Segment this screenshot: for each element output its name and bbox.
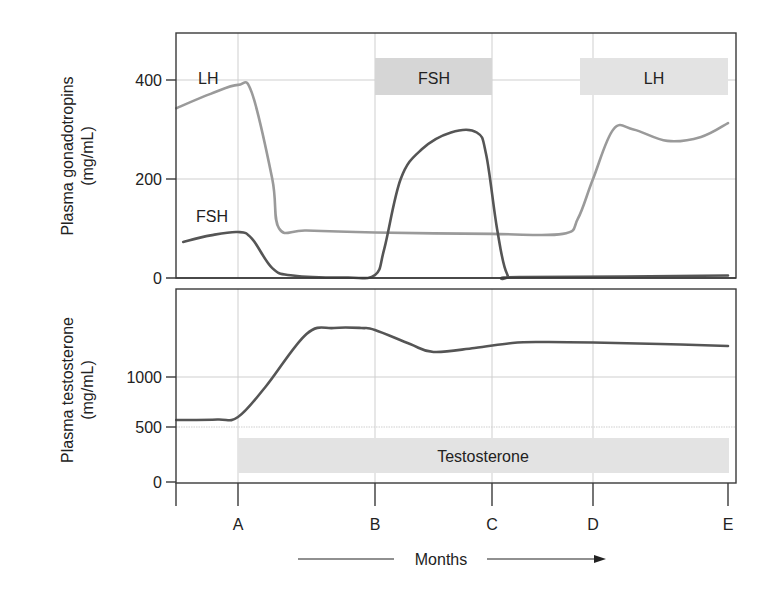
lh-curve-label: LH (198, 70, 218, 87)
top-panel-series (176, 82, 728, 279)
x-tick-label: B (370, 516, 381, 533)
x-tick-label: C (486, 516, 498, 533)
bottom-panel: 05001000 Testosterone Plasma testosteron… (59, 289, 736, 491)
y-tick-label: 0 (153, 474, 162, 491)
testosterone-line (176, 327, 728, 420)
arrow-right-icon (594, 555, 606, 563)
y-tick-label: 400 (135, 72, 162, 89)
testosterone-band-label: Testosterone (437, 448, 529, 465)
bottom-panel-series (176, 327, 728, 420)
x-tick-label: D (587, 516, 599, 533)
fsh-band-label: FSH (418, 70, 450, 87)
top-ylabel-line2: (mg/mL) (79, 126, 96, 186)
bottom-y-axis-label: Plasma testosterone (mg/mL) (59, 317, 96, 463)
lh-band-label: LH (644, 70, 664, 87)
months-axis-label: Months (298, 551, 606, 568)
lh-line (176, 82, 728, 235)
months-label: Months (415, 551, 467, 568)
y-tick-label: 0 (153, 270, 162, 287)
top-ylabel-line1: Plasma gonadotropins (59, 76, 76, 235)
chart-canvas: 0200400 LH FSH FSH LH Plasma gonadotropi… (0, 0, 770, 597)
x-tick-label: E (723, 516, 734, 533)
top-y-axis-label: Plasma gonadotropins (mg/mL) (59, 76, 96, 235)
top-panel: 0200400 LH FSH FSH LH Plasma gonadotropi… (59, 33, 736, 287)
fsh-curve-label: FSH (196, 208, 228, 225)
bottom-ylabel-line1: Plasma testosterone (59, 317, 76, 463)
bottom-y-axis-ticks: 05001000 (126, 369, 176, 491)
y-tick-label: 200 (135, 171, 162, 188)
x-axis: ABCDE (176, 483, 733, 533)
y-tick-label: 500 (135, 419, 162, 436)
y-tick-label: 1000 (126, 369, 162, 386)
bottom-ylabel-line2: (mg/mL) (79, 360, 96, 420)
x-tick-label: A (233, 516, 244, 533)
chart-figure: 0200400 LH FSH FSH LH Plasma gonadotropi… (0, 0, 770, 597)
fsh-line (183, 130, 728, 279)
